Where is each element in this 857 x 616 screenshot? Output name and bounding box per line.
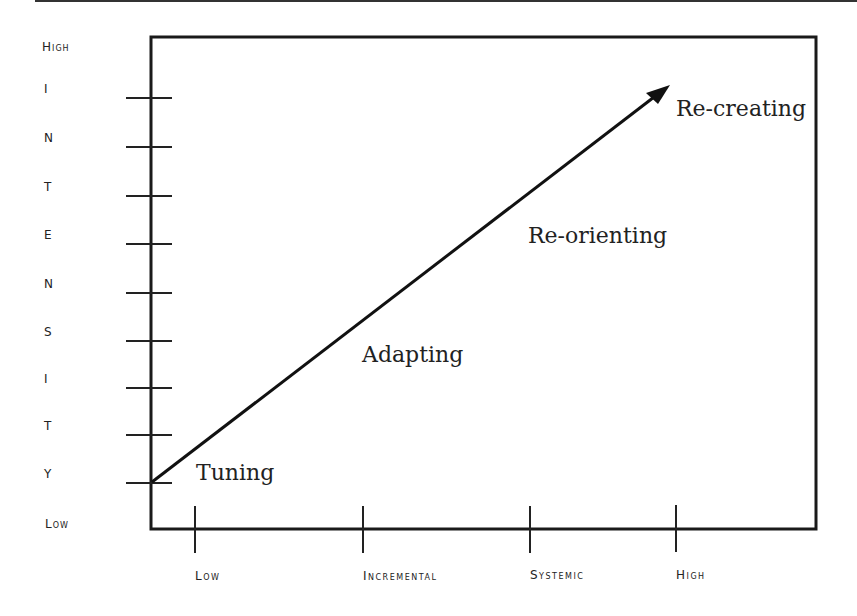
y-letter: N (44, 277, 54, 291)
y-axis-high-label: High (42, 40, 70, 54)
x-axis-label-systemic: Systemic (530, 568, 584, 582)
stage-recreating: Re-creating (676, 96, 806, 121)
y-letter: T (43, 180, 52, 194)
y-letter: I (44, 372, 49, 386)
stage-reorienting: Re-orienting (528, 223, 667, 248)
y-axis-ticks (126, 98, 172, 483)
x-axis-label-low: Low (195, 569, 220, 583)
x-axis-label-incremental: Incremental (363, 569, 437, 583)
y-letter: E (44, 228, 53, 242)
y-letter: T (43, 419, 52, 433)
x-axis-label-high: High (676, 568, 706, 582)
y-letter: Y (43, 467, 52, 481)
y-letter: N (44, 131, 54, 145)
stage-tuning: Tuning (196, 460, 274, 485)
change-intensity-diagram: High I N T E N S I T Y Low Low Increment… (0, 0, 857, 616)
change-arrow (152, 85, 670, 482)
y-letter: S (44, 325, 53, 339)
y-axis-low-label: Low (45, 517, 69, 531)
y-letter: I (44, 82, 49, 96)
stage-adapting: Adapting (361, 342, 463, 367)
